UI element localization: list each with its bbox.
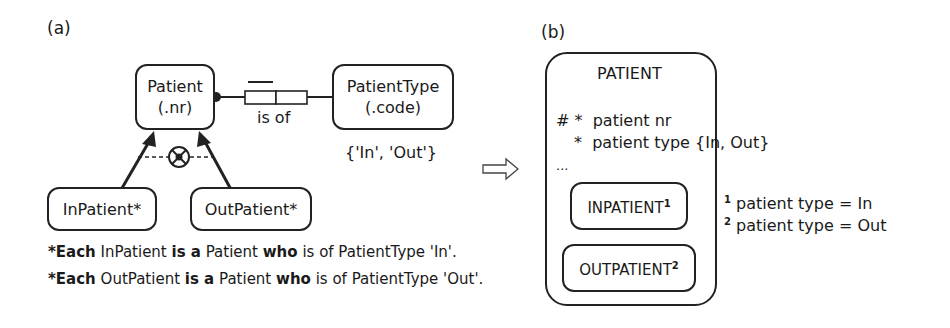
footnote-1: 1 patient type = In [724, 194, 872, 213]
subtype-rule-inpatient: *Each InPatient is a Patient who is of P… [48, 243, 457, 261]
entity-patient-type[interactable]: PatientType (.code) [332, 64, 454, 130]
subtype-outpatient[interactable]: OUTPATIENT2 [562, 244, 696, 292]
entity-inpatient[interactable]: InPatient* [47, 187, 157, 231]
reference-mode: (.code) [365, 97, 421, 118]
footnote-2: 2 patient type = Out [724, 216, 886, 235]
subtype-arrowhead-icon [142, 131, 156, 147]
entity-name: InPatient* [63, 199, 142, 220]
fact-type-reading: is of [257, 108, 290, 127]
entity-title: PATIENT [597, 64, 662, 83]
ellipsis: ... [556, 158, 568, 173]
reference-mode: (.nr) [158, 97, 192, 118]
subtype-arrowhead-icon [197, 131, 211, 147]
subtype-rule-outpatient: *Each OutPatient is a Patient who is of … [48, 270, 483, 288]
entity-name: PatientType [347, 76, 439, 97]
panel-b-label: (b) [541, 22, 565, 42]
entity-name: OutPatient* [205, 199, 298, 220]
attribute-patient-type: * patient type {In, Out} [574, 133, 769, 152]
subtype-inpatient[interactable]: INPATIENT1 [570, 182, 688, 230]
entity-patient[interactable]: Patient (.nr) [135, 64, 215, 130]
value-constraint: {'In', 'Out'} [345, 143, 437, 162]
attribute-patient-nr: # * patient nr [556, 111, 671, 130]
right-hollow-arrow-icon [483, 159, 518, 179]
entity-outpatient[interactable]: OutPatient* [190, 187, 312, 231]
exclusive-or-constraint-icon [169, 147, 189, 167]
entity-name: Patient [147, 76, 203, 97]
